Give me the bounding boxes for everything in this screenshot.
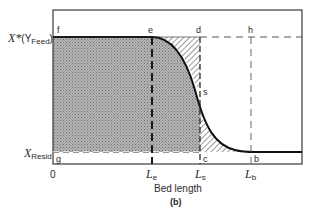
x-tick-ls: Ls [194,167,206,182]
point-d-label: d [196,25,201,35]
point-c-label: c [203,154,208,164]
breakthrough-diagram: f e d h s g c b X*(YFeed) XResid 0 Le Ls… [0,0,313,214]
x-axis-label: Bed length [154,183,202,194]
y-label-resid: XResid [23,146,52,161]
y-label-feed: X*(YFeed) [7,31,53,46]
x-tick-origin: 0 [50,169,56,180]
point-e-label: e [148,25,153,35]
figure-caption: (b) [170,197,182,207]
x-tick-le: Le [145,167,158,182]
point-h-label: h [248,25,253,35]
point-s-label: s [203,87,208,97]
point-f-label: f [57,25,60,35]
point-g-label: g [56,154,61,164]
x-tick-lb: Lb [244,167,257,182]
stippled-region [53,37,200,152]
point-b-label: b [254,154,259,164]
